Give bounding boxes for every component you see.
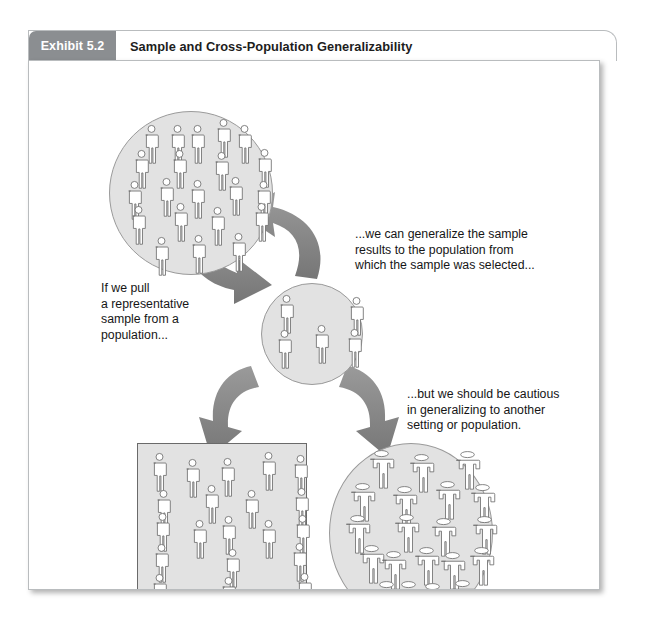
person-figure: [151, 453, 168, 493]
person-figure: [209, 207, 226, 247]
person-figure: [219, 458, 236, 498]
person-figure: [130, 206, 147, 246]
person-figure: [236, 125, 253, 165]
callout-bottom-right: ...but we should be cautious in generali…: [407, 387, 600, 434]
exhibit-card: Exhibit 5.2 Sample and Cross-Population …: [28, 30, 617, 590]
person-figure: [450, 579, 475, 590]
arrow-sample-to-other-population: [339, 366, 399, 457]
person-figure: [296, 573, 313, 590]
person-figure: [227, 177, 244, 217]
population-circle: [109, 111, 273, 275]
person-figure: [420, 582, 445, 590]
person-figure: [278, 295, 295, 335]
other-population-circle: [329, 443, 493, 590]
same-population-square: [137, 443, 307, 590]
person-figure: [346, 329, 363, 369]
person-figure: [396, 580, 421, 590]
sample-circle: [261, 283, 363, 385]
person-figure: [243, 490, 260, 530]
person-figure: [151, 574, 168, 590]
person-figure: [260, 520, 277, 560]
person-figure: [189, 180, 206, 220]
callout-left: If we pull a representative sample from …: [101, 281, 251, 343]
exhibit-page: Exhibit 5.2 Sample and Cross-Population …: [0, 0, 655, 632]
exhibit-body: If we pull a representative sample from …: [28, 60, 600, 590]
person-figure: [230, 233, 247, 273]
exhibit-header: Exhibit 5.2 Sample and Cross-Population …: [28, 30, 617, 61]
person-figure: [153, 237, 170, 277]
person-figure: [191, 520, 208, 560]
person-figure: [184, 459, 201, 499]
person-figure: [359, 544, 384, 585]
person-figure: [313, 325, 330, 365]
exhibit-title: Sample and Cross-Population Generalizabi…: [130, 31, 412, 61]
person-figure: [220, 577, 237, 590]
person-figure: [190, 235, 207, 275]
person-figure: [260, 452, 277, 492]
callout-top-right: ...we can generalize the sample results …: [355, 227, 585, 274]
person-figure: [189, 125, 206, 165]
exhibit-number-tab: Exhibit 5.2: [29, 31, 116, 61]
person-figure: [276, 330, 293, 370]
person-figure: [172, 203, 189, 243]
person-figure: [435, 480, 460, 521]
person-figure: [253, 203, 270, 243]
